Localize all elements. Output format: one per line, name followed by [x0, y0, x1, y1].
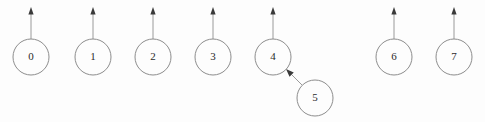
node-label: 2	[150, 50, 156, 62]
graph-node[interactable]: 3	[195, 39, 231, 75]
graph-node[interactable]: 0	[13, 39, 49, 75]
diagonal-arrows-layer	[286, 69, 302, 85]
nodes-layer: 01234567	[13, 39, 472, 116]
up-arrow	[270, 7, 275, 39]
diagonal-arrow-shaft	[292, 75, 302, 85]
diagram-canvas: 01234567	[0, 0, 485, 122]
node-label: 0	[28, 50, 34, 62]
up-arrow	[90, 7, 95, 39]
node-label: 6	[391, 50, 397, 62]
graph-node[interactable]: 1	[75, 39, 111, 75]
up-arrow-head-icon	[90, 7, 95, 15]
up-arrow	[150, 7, 155, 39]
up-arrow-head-icon	[391, 7, 396, 15]
diagonal-arrow	[286, 69, 302, 85]
up-arrows-layer	[28, 7, 456, 39]
up-arrow-head-icon	[210, 7, 215, 15]
up-arrow-head-icon	[150, 7, 155, 15]
node-label: 5	[312, 91, 318, 103]
graph-node[interactable]: 2	[135, 39, 171, 75]
graph-node[interactable]: 6	[376, 39, 412, 75]
node-label: 3	[210, 50, 216, 62]
up-arrow-head-icon	[270, 7, 275, 15]
node-label: 7	[451, 50, 457, 62]
diagram-svg: 01234567	[0, 0, 485, 122]
up-arrow-head-icon	[28, 7, 33, 15]
up-arrow	[210, 7, 215, 39]
node-label: 4	[270, 50, 276, 62]
up-arrow	[451, 7, 456, 39]
node-label: 1	[90, 50, 96, 62]
up-arrow	[28, 7, 33, 39]
up-arrow-head-icon	[451, 7, 456, 15]
graph-node[interactable]: 5	[297, 80, 333, 116]
graph-node[interactable]: 4	[255, 39, 291, 75]
graph-node[interactable]: 7	[436, 39, 472, 75]
up-arrow	[391, 7, 396, 39]
